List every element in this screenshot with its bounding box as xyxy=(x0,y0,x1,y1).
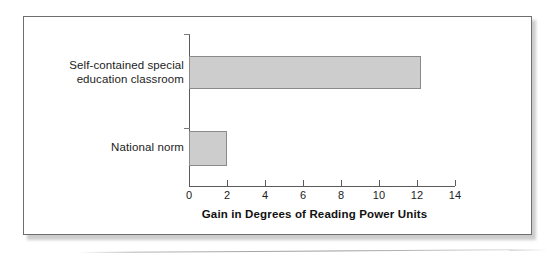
x-axis-tick-label: 4 xyxy=(245,188,285,202)
x-axis-tick-label: 0 xyxy=(169,188,209,202)
plot-area: 02468101214 Self-contained special educa… xyxy=(24,17,533,236)
x-axis-title: Gain in Degrees of Reading Power Units xyxy=(24,208,533,220)
x-axis-tick-label: 2 xyxy=(207,188,247,202)
x-axis-tick xyxy=(227,180,228,186)
x-axis-tick xyxy=(265,180,266,186)
y-axis-tick-middle xyxy=(184,128,190,129)
x-axis-tick-label: 12 xyxy=(397,188,437,202)
x-axis-tick xyxy=(303,180,304,186)
y-axis-tick-top xyxy=(184,34,190,35)
category-label-line-2: education classroom xyxy=(0,72,184,86)
category-label-national-norm: National norm xyxy=(0,140,184,154)
x-axis-tick-label: 8 xyxy=(321,188,361,202)
x-axis-tick xyxy=(379,180,380,186)
category-label-line-1: Self-contained special xyxy=(0,58,184,72)
bar-self-contained-special-education-classroom xyxy=(189,56,421,89)
x-axis-tick xyxy=(417,180,418,186)
scan-artifact-line xyxy=(78,249,548,253)
x-axis-line xyxy=(189,186,455,187)
bar-national-norm xyxy=(189,131,227,166)
category-label-line-1: National norm xyxy=(0,140,184,154)
chart-screenshot: 02468101214 Self-contained special educa… xyxy=(0,0,556,259)
x-axis-tick xyxy=(189,180,190,186)
x-axis-tick xyxy=(341,180,342,186)
x-axis-tick-label: 10 xyxy=(359,188,399,202)
x-axis-tick-label: 6 xyxy=(283,188,323,202)
x-axis-tick xyxy=(455,180,456,186)
x-axis-tick-label: 14 xyxy=(435,188,475,202)
figure-frame: 02468101214 Self-contained special educa… xyxy=(23,16,532,235)
category-label-self-contained: Self-contained special education classro… xyxy=(0,58,184,86)
